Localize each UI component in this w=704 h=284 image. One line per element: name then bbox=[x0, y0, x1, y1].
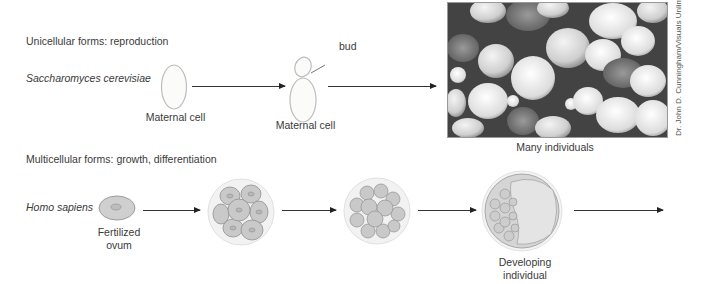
yeast-species-label: Saccharomyces cerevisiae bbox=[26, 72, 151, 84]
arrow-1 bbox=[192, 86, 285, 87]
eight-cell-embryo-icon bbox=[207, 178, 275, 246]
fertilized-ovum-label: Fertilized ovum bbox=[92, 226, 146, 252]
budding-cell-icon bbox=[288, 45, 324, 125]
maternal-cell-label-1: Maternal cell bbox=[138, 111, 213, 123]
arrow-4 bbox=[282, 210, 336, 211]
developing-individual-label: Developing individual bbox=[490, 256, 560, 282]
bud-annotation: bud bbox=[339, 40, 357, 52]
blastocyst-icon bbox=[481, 168, 571, 258]
arrow-6 bbox=[574, 210, 663, 211]
yeast-micrograph bbox=[447, 2, 668, 138]
unicellular-heading: Unicellular forms: reproduction bbox=[26, 35, 168, 47]
many-individuals-label: Many individuals bbox=[500, 141, 610, 153]
multicellular-heading: Multicellular forms: growth, differentia… bbox=[26, 153, 217, 165]
arrow-3 bbox=[143, 210, 200, 211]
arrow-5 bbox=[418, 210, 476, 211]
morula-icon bbox=[343, 177, 411, 245]
arrow-2 bbox=[328, 86, 436, 87]
human-species-label: Homo sapiens bbox=[26, 201, 93, 213]
maternal-cell-label-2: Maternal cell bbox=[268, 119, 343, 131]
maternal-cell-icon bbox=[160, 63, 188, 111]
photo-credit: Dr. John D. Cunningham/Visuals Unlimited bbox=[674, 0, 683, 136]
fertilized-ovum-icon bbox=[99, 196, 139, 226]
